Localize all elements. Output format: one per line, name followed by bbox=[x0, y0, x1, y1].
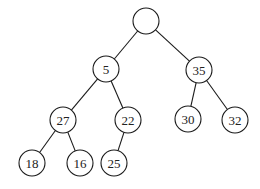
tree-node-root bbox=[133, 8, 159, 34]
tree-node-n35: 35 bbox=[186, 57, 212, 83]
tree-edge-n35-n32 bbox=[207, 81, 228, 110]
binary-tree-diagram: 53527223032181625 bbox=[0, 0, 260, 189]
tree-node-n22: 22 bbox=[115, 107, 141, 133]
tree-edge-n5-n27 bbox=[71, 79, 97, 110]
tree-edge-root-n35 bbox=[156, 30, 190, 61]
node-label: 32 bbox=[229, 113, 242, 128]
tree-edge-n22-n25 bbox=[118, 132, 124, 150]
node-label: 30 bbox=[182, 112, 195, 127]
node-label: 18 bbox=[26, 156, 39, 171]
tree-edges bbox=[40, 30, 228, 153]
tree-node-n16: 16 bbox=[67, 150, 93, 176]
tree-node-n18: 18 bbox=[19, 150, 45, 176]
tree-nodes: 53527223032181625 bbox=[19, 8, 248, 176]
tree-edge-n27-n18 bbox=[40, 131, 56, 153]
tree-node-n5: 5 bbox=[93, 56, 119, 82]
node-label: 22 bbox=[122, 113, 135, 128]
tree-node-n25: 25 bbox=[101, 150, 127, 176]
tree-node-n27: 27 bbox=[50, 107, 76, 133]
node-label: 35 bbox=[193, 63, 206, 78]
tree-edge-n27-n16 bbox=[68, 132, 75, 151]
tree-node-n30: 30 bbox=[175, 106, 201, 132]
node-label: 25 bbox=[108, 156, 121, 171]
tree-edge-n35-n30 bbox=[191, 83, 196, 107]
tree-edge-n5-n22 bbox=[111, 81, 123, 108]
node-label: 5 bbox=[103, 62, 110, 77]
tree-node-n32: 32 bbox=[222, 107, 248, 133]
node-label: 27 bbox=[57, 113, 71, 128]
node-label: 16 bbox=[74, 156, 88, 171]
node-circle bbox=[133, 8, 159, 34]
tree-edge-root-n5 bbox=[114, 31, 137, 59]
